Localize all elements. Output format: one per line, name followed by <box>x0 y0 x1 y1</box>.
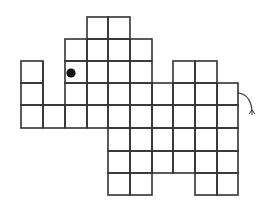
grid-cell <box>173 151 195 173</box>
grid-cell <box>130 83 152 105</box>
grid-cell <box>195 151 217 173</box>
grid-cell <box>108 83 130 105</box>
grid-cell <box>173 105 195 128</box>
grid-cell <box>130 173 152 195</box>
grid-cell <box>87 61 108 83</box>
grid-cell <box>108 61 130 83</box>
grid-cell <box>87 83 108 105</box>
trunk-gap-lines <box>43 61 65 105</box>
grid-cell <box>217 83 238 105</box>
grid-cell <box>130 61 152 83</box>
grid-cell <box>130 128 152 151</box>
grid-cell <box>87 39 108 61</box>
grid-cell <box>130 105 152 128</box>
grid-cell <box>108 151 130 173</box>
grid-cell <box>65 105 87 128</box>
elephant-grid-figure: Elephant made of grid squares <box>0 0 260 205</box>
grid-cell <box>108 39 130 61</box>
grid-cell <box>152 128 173 151</box>
grid-cell <box>130 151 152 173</box>
grid-cell <box>173 83 195 105</box>
grid-cell <box>65 39 87 61</box>
tail-tuft-icon <box>249 110 255 115</box>
grid-cell <box>21 105 43 128</box>
grid-cell <box>195 128 217 151</box>
grid-cell <box>108 128 130 151</box>
grid-cell <box>108 173 130 195</box>
grid-cell <box>173 128 195 151</box>
grid-cell <box>108 17 130 39</box>
grid-cell <box>217 128 238 151</box>
grid-cell <box>173 61 195 83</box>
grid-cells <box>21 17 238 195</box>
grid-cell <box>87 17 108 39</box>
grid-cell <box>195 105 217 128</box>
grid-cell <box>108 105 130 128</box>
elephant-grid-drawing <box>0 0 260 205</box>
grid-cell <box>21 61 43 83</box>
grid-cell <box>152 151 173 173</box>
grid-cell <box>21 83 43 105</box>
grid-cell <box>130 39 152 61</box>
grid-cell <box>217 173 238 195</box>
grid-cell <box>195 83 217 105</box>
grid-cell <box>217 151 238 173</box>
grid-cell <box>87 105 108 128</box>
tail-icon <box>238 93 252 110</box>
grid-cell <box>152 105 173 128</box>
grid-cell <box>65 83 87 105</box>
grid-cell <box>217 105 238 128</box>
grid-cell <box>195 61 217 83</box>
grid-cell <box>152 83 173 105</box>
eye-icon <box>66 68 75 77</box>
grid-cell <box>43 105 65 128</box>
grid-cell <box>195 173 217 195</box>
